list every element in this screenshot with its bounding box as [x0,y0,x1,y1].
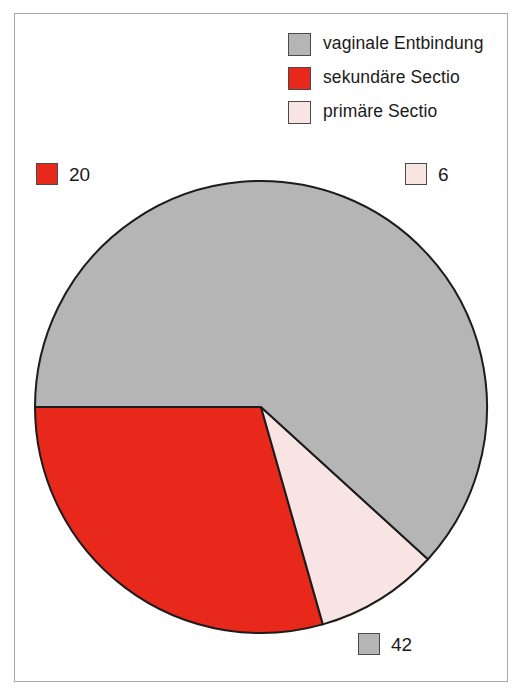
data-label-value-6: 6 [438,165,449,184]
legend-label-primaere-sectio: primäre Sectio [323,103,437,121]
data-label-value-20: 20 [69,165,90,184]
data-label-swatch-gray [358,633,380,655]
legend-swatch-pink [288,101,311,124]
legend-item-primaere-sectio: primäre Sectio [288,100,484,124]
pie-slices [35,181,487,633]
data-label-swatch-red [36,163,58,185]
data-label-sekundaere-sectio: 20 [36,163,90,185]
data-label-primaere-sectio: 6 [405,163,449,185]
data-label-swatch-pink [405,163,427,185]
pie-chart-figure: vaginale Entbindung sekundäre Sectio pri… [0,0,521,695]
legend-swatch-red [288,67,311,90]
legend-label-vaginale-entbindung: vaginale Entbindung [323,35,484,53]
chart-legend: vaginale Entbindung sekundäre Sectio pri… [288,32,484,124]
legend-item-sekundaere-sectio: sekundäre Sectio [288,66,484,90]
legend-swatch-gray [288,33,311,56]
data-label-value-42: 42 [391,635,412,654]
legend-item-vaginale-entbindung: vaginale Entbindung [288,32,484,56]
legend-label-sekundaere-sectio: sekundäre Sectio [323,69,460,87]
data-label-vaginale-entbindung: 42 [358,633,412,655]
